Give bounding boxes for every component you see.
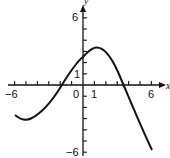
y-axis (80, 5, 87, 156)
x-tick-label-6: 6 (148, 88, 154, 100)
x-axis-arrow-icon (159, 82, 166, 88)
x-tick-label-1: 1 (91, 88, 97, 100)
y-tick-label-neg6: −6 (66, 146, 79, 158)
x-tick-label-neg6: −6 (5, 88, 18, 100)
y-tick-label-1: 1 (74, 68, 80, 80)
y-axis-arrow-icon (80, 5, 86, 12)
x-axis-label: x (165, 80, 170, 91)
chart: −6 0 1 6 6 1 −6 x y (0, 0, 170, 158)
x-axis (8, 81, 166, 88)
x-tick-label-0: 0 (73, 88, 79, 100)
y-tick-label-6: 6 (72, 11, 78, 23)
y-axis-label: y (83, 0, 89, 6)
